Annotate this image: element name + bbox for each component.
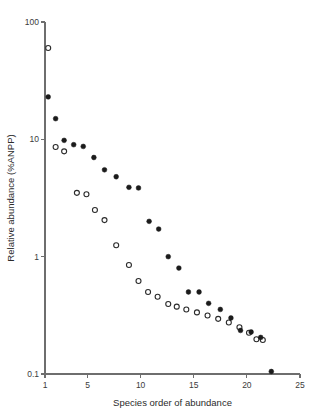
data-point-filled-circles-5 (91, 155, 96, 160)
data-point-filled-circles-10 (147, 219, 152, 224)
chart-background (0, 0, 314, 420)
x-tick-label-3: 15 (189, 380, 199, 390)
data-point-filled-circles-16 (206, 301, 211, 306)
data-point-open-circles-4 (84, 192, 89, 197)
data-point-open-circles-6 (102, 218, 107, 223)
data-point-filled-circles-21 (258, 335, 263, 340)
data-point-open-circles-16 (205, 313, 210, 318)
data-point-open-circles-13 (174, 304, 179, 309)
data-point-filled-circles-2 (62, 138, 67, 143)
data-point-open-circles-15 (194, 310, 199, 315)
data-point-filled-circles-12 (166, 254, 171, 259)
data-point-open-circles-5 (92, 207, 97, 212)
data-point-open-circles-1 (53, 145, 58, 150)
data-point-filled-circles-9 (136, 186, 141, 191)
x-axis-title: Species order of abundance (113, 397, 232, 408)
rank-abundance-chart: 0.11101001510152025Species order of abun… (0, 0, 314, 420)
data-point-filled-circles-13 (176, 266, 181, 271)
data-point-open-circles-10 (146, 289, 151, 294)
data-point-filled-circles-17 (218, 307, 223, 312)
x-tick-label-5: 25 (295, 380, 305, 390)
x-tick-label-0: 1 (43, 380, 48, 390)
data-point-open-circles-2 (62, 149, 67, 154)
data-point-open-circles-9 (136, 279, 141, 284)
data-point-filled-circles-19 (238, 328, 243, 333)
y-tick-label-3: 100 (25, 17, 39, 27)
y-tick-label-1: 1 (34, 252, 39, 262)
data-point-open-circles-0 (46, 46, 51, 51)
data-point-filled-circles-22 (269, 369, 274, 374)
data-point-open-circles-14 (184, 307, 189, 312)
data-point-open-circles-3 (74, 190, 79, 195)
y-tick-label-0: 0.1 (27, 369, 39, 379)
data-point-filled-circles-20 (249, 330, 254, 335)
data-point-filled-circles-6 (102, 167, 107, 172)
data-point-filled-circles-8 (127, 185, 132, 190)
data-point-filled-circles-14 (186, 290, 191, 295)
data-point-open-circles-12 (166, 302, 171, 307)
data-point-open-circles-11 (155, 294, 160, 299)
data-point-filled-circles-11 (156, 227, 161, 232)
chart-svg: 0.11101001510152025Species order of abun… (0, 0, 314, 420)
data-point-open-circles-17 (216, 316, 221, 321)
data-point-open-circles-7 (114, 243, 119, 248)
data-point-filled-circles-4 (81, 144, 86, 149)
x-tick-label-4: 20 (242, 380, 252, 390)
data-point-filled-circles-0 (46, 94, 51, 99)
data-point-filled-circles-3 (71, 142, 76, 147)
data-point-open-circles-18 (226, 320, 231, 325)
x-tick-label-2: 10 (136, 380, 146, 390)
data-point-open-circles-8 (126, 262, 131, 267)
y-tick-label-2: 10 (30, 134, 40, 144)
data-point-filled-circles-7 (114, 174, 119, 179)
data-point-filled-circles-18 (229, 316, 234, 321)
data-point-filled-circles-1 (53, 116, 58, 121)
x-tick-label-1: 5 (85, 380, 90, 390)
data-point-filled-circles-15 (197, 290, 202, 295)
y-axis-title: Relative abundance (%ANPP) (5, 134, 16, 261)
